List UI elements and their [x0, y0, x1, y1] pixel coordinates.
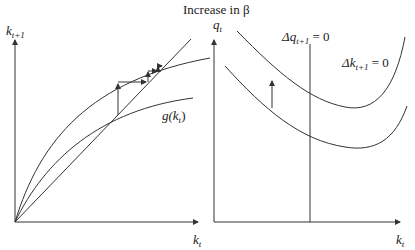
- left-y-axis-label: kt+1: [6, 24, 25, 37]
- shifted-g-curve: [15, 58, 210, 222]
- diagram-title: Increase in β: [183, 3, 250, 16]
- delta-k-zero-locus: [225, 66, 407, 148]
- forty-five-degree-line: [15, 39, 191, 222]
- diagram-canvas: [0, 0, 415, 250]
- right-y-axis-label: qt: [213, 18, 222, 31]
- delta-k-zero-label: Δkt+1 = 0: [342, 56, 389, 69]
- delta-q-zero-label: Δqt+1 = 0: [282, 30, 330, 43]
- right-x-axis-label: kt: [396, 233, 404, 246]
- g-curve-label: g(kt): [162, 109, 185, 122]
- left-x-axis-label: kt: [193, 233, 201, 246]
